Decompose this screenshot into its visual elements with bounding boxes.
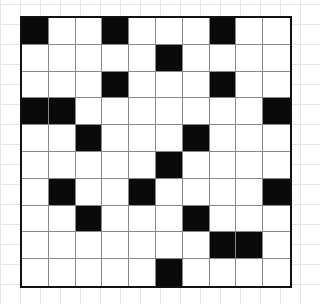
white-cell[interactable] <box>210 179 237 206</box>
white-cell[interactable] <box>183 179 210 206</box>
white-cell[interactable] <box>263 45 290 72</box>
white-cell[interactable] <box>129 18 156 45</box>
black-cell <box>102 72 129 99</box>
white-cell[interactable] <box>236 206 263 233</box>
white-cell[interactable] <box>22 179 49 206</box>
white-cell[interactable] <box>76 232 103 259</box>
white-cell[interactable] <box>129 259 156 286</box>
black-cell <box>49 179 76 206</box>
black-cell <box>102 18 129 45</box>
white-cell[interactable] <box>22 232 49 259</box>
white-cell[interactable] <box>49 206 76 233</box>
white-cell[interactable] <box>156 98 183 125</box>
white-cell[interactable] <box>76 152 103 179</box>
white-cell[interactable] <box>263 206 290 233</box>
white-cell[interactable] <box>156 18 183 45</box>
white-cell[interactable] <box>102 232 129 259</box>
white-cell[interactable] <box>22 259 49 286</box>
white-cell[interactable] <box>183 45 210 72</box>
black-cell <box>263 98 290 125</box>
white-cell[interactable] <box>210 259 237 286</box>
black-cell <box>156 45 183 72</box>
white-cell[interactable] <box>129 125 156 152</box>
white-cell[interactable] <box>49 125 76 152</box>
white-cell[interactable] <box>129 98 156 125</box>
white-cell[interactable] <box>183 72 210 99</box>
white-cell[interactable] <box>129 206 156 233</box>
white-cell[interactable] <box>183 232 210 259</box>
black-cell <box>22 18 49 45</box>
white-cell[interactable] <box>102 179 129 206</box>
white-cell[interactable] <box>183 152 210 179</box>
white-cell[interactable] <box>49 259 76 286</box>
black-cell <box>129 179 156 206</box>
white-cell[interactable] <box>210 206 237 233</box>
black-cell <box>263 179 290 206</box>
white-cell[interactable] <box>156 206 183 233</box>
black-cell <box>183 206 210 233</box>
white-cell[interactable] <box>22 206 49 233</box>
black-cell <box>76 206 103 233</box>
white-cell[interactable] <box>49 72 76 99</box>
white-cell[interactable] <box>210 98 237 125</box>
white-cell[interactable] <box>49 152 76 179</box>
white-cell[interactable] <box>210 152 237 179</box>
white-cell[interactable] <box>236 125 263 152</box>
white-cell[interactable] <box>156 72 183 99</box>
white-cell[interactable] <box>76 98 103 125</box>
white-cell[interactable] <box>102 206 129 233</box>
white-cell[interactable] <box>210 45 237 72</box>
white-cell[interactable] <box>22 125 49 152</box>
white-cell[interactable] <box>236 18 263 45</box>
white-cell[interactable] <box>263 152 290 179</box>
white-cell[interactable] <box>76 18 103 45</box>
black-cell <box>76 125 103 152</box>
black-cell <box>49 98 76 125</box>
black-cell <box>210 232 237 259</box>
white-cell[interactable] <box>102 98 129 125</box>
white-cell[interactable] <box>76 259 103 286</box>
white-cell[interactable] <box>76 45 103 72</box>
white-cell[interactable] <box>129 232 156 259</box>
white-cell[interactable] <box>102 259 129 286</box>
white-cell[interactable] <box>263 72 290 99</box>
white-cell[interactable] <box>263 125 290 152</box>
crossword-grid <box>20 16 292 288</box>
white-cell[interactable] <box>102 125 129 152</box>
white-cell[interactable] <box>236 45 263 72</box>
white-cell[interactable] <box>49 232 76 259</box>
white-cell[interactable] <box>236 179 263 206</box>
white-cell[interactable] <box>102 152 129 179</box>
white-cell[interactable] <box>183 18 210 45</box>
white-cell[interactable] <box>129 72 156 99</box>
white-cell[interactable] <box>263 232 290 259</box>
white-cell[interactable] <box>236 72 263 99</box>
white-cell[interactable] <box>156 232 183 259</box>
black-cell <box>210 72 237 99</box>
white-cell[interactable] <box>49 18 76 45</box>
white-cell[interactable] <box>102 45 129 72</box>
white-cell[interactable] <box>236 259 263 286</box>
white-cell[interactable] <box>22 45 49 72</box>
white-cell[interactable] <box>183 259 210 286</box>
white-cell[interactable] <box>236 98 263 125</box>
white-cell[interactable] <box>49 45 76 72</box>
white-cell[interactable] <box>156 125 183 152</box>
white-cell[interactable] <box>129 45 156 72</box>
black-cell <box>156 152 183 179</box>
white-cell[interactable] <box>263 18 290 45</box>
white-cell[interactable] <box>263 259 290 286</box>
white-cell[interactable] <box>76 179 103 206</box>
white-cell[interactable] <box>22 72 49 99</box>
white-cell[interactable] <box>210 125 237 152</box>
black-cell <box>236 232 263 259</box>
black-cell <box>210 18 237 45</box>
white-cell[interactable] <box>22 152 49 179</box>
white-cell[interactable] <box>156 179 183 206</box>
white-cell[interactable] <box>129 152 156 179</box>
white-cell[interactable] <box>76 72 103 99</box>
black-cell <box>183 125 210 152</box>
white-cell[interactable] <box>183 98 210 125</box>
white-cell[interactable] <box>236 152 263 179</box>
black-cell <box>22 98 49 125</box>
